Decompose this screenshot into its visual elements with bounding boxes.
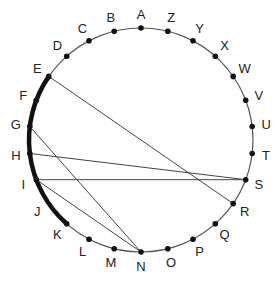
point-j-label: J xyxy=(34,204,41,219)
point-u-label: U xyxy=(261,117,270,132)
point-p-dot xyxy=(190,236,196,242)
point-m-dot xyxy=(111,246,117,252)
point-l-label: L xyxy=(79,244,86,259)
point-n-label: N xyxy=(136,259,145,274)
point-z-label: Z xyxy=(167,10,175,25)
point-p-label: P xyxy=(195,244,204,259)
point-v-dot xyxy=(243,98,249,104)
point-n-dot xyxy=(138,249,144,255)
point-o-label: O xyxy=(166,255,176,270)
point-z-dot xyxy=(165,29,171,35)
point-k-label: K xyxy=(53,227,62,242)
point-y-dot xyxy=(190,38,196,44)
point-c-label: C xyxy=(78,21,87,36)
point-x-label: X xyxy=(220,38,229,53)
point-w-dot xyxy=(230,74,236,80)
point-h-dot xyxy=(27,151,33,157)
chord-e-r xyxy=(49,76,233,203)
point-x-dot xyxy=(213,53,219,59)
point-g-dot xyxy=(27,124,33,130)
point-f-label: F xyxy=(19,88,27,103)
point-o-dot xyxy=(165,246,171,252)
point-b-dot xyxy=(111,29,117,35)
point-h-label: H xyxy=(11,148,20,163)
point-y-label: Y xyxy=(195,21,204,36)
point-q-label: Q xyxy=(220,227,230,242)
point-a-label: A xyxy=(137,7,146,22)
point-e-dot xyxy=(46,74,52,80)
point-m-label: M xyxy=(105,255,116,270)
point-s-label: S xyxy=(254,177,263,192)
point-s-dot xyxy=(243,177,249,183)
point-r-dot xyxy=(230,201,236,207)
circle-chord-diagram: ABCDEFGHIJKLMNOPQRSTUVWXYZ xyxy=(0,0,280,282)
point-i-dot xyxy=(34,177,40,183)
chord-h-s xyxy=(30,154,246,180)
point-r-label: R xyxy=(240,204,249,219)
point-d-label: D xyxy=(53,38,62,53)
point-t-dot xyxy=(249,151,255,157)
chord-g-n xyxy=(30,127,141,253)
point-g-label: G xyxy=(11,117,21,132)
point-d-dot xyxy=(64,53,70,59)
point-u-dot xyxy=(249,124,255,130)
point-v-label: V xyxy=(254,88,263,103)
point-k-dot xyxy=(64,221,70,227)
point-a-dot xyxy=(138,25,144,31)
point-b-label: B xyxy=(107,10,116,25)
point-l-dot xyxy=(86,236,92,242)
point-e-label: E xyxy=(33,61,42,76)
point-f-dot xyxy=(34,98,40,104)
point-t-label: T xyxy=(262,148,270,163)
point-c-dot xyxy=(86,38,92,44)
point-w-label: W xyxy=(239,61,252,76)
point-i-label: I xyxy=(21,177,25,192)
point-q-dot xyxy=(213,221,219,227)
